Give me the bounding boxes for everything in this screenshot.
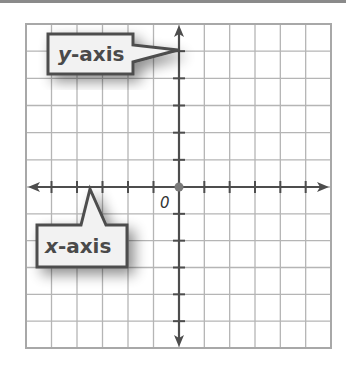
coordinate-plane: y-axis x-axis 0 [0, 0, 346, 368]
origin-point [175, 183, 184, 192]
origin-label: 0 [160, 194, 170, 212]
y-axis-label: y-axis [58, 42, 125, 66]
x-axis-label: x-axis [44, 234, 111, 258]
